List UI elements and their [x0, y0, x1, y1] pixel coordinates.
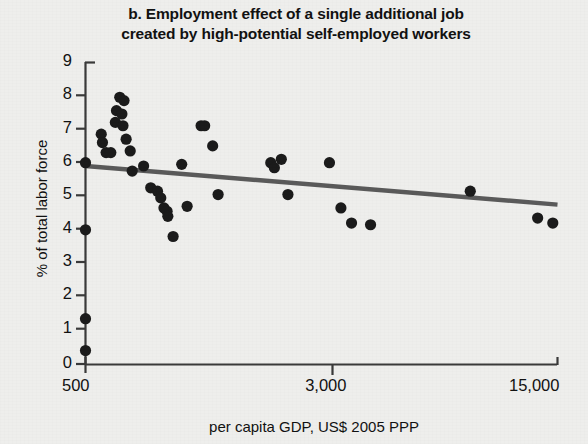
scatter-points: [80, 92, 559, 357]
scatter-point: [276, 154, 287, 165]
scatter-point: [155, 192, 166, 203]
scatter-point: [125, 145, 136, 156]
scatter-point: [121, 134, 132, 145]
x-axis-label: per capita GDP, US$ 2005 PPP: [94, 418, 534, 435]
scatter-point: [105, 147, 116, 158]
scatter-point: [80, 224, 91, 235]
scatter-point: [465, 186, 476, 197]
figure-panel: b. Employment effect of a single additio…: [0, 0, 588, 444]
scatter-point: [365, 219, 376, 230]
scatter-point: [80, 157, 91, 168]
x-tick-label-500: 500: [62, 376, 90, 395]
scatter-point: [80, 313, 91, 324]
scatter-point: [199, 120, 210, 131]
scatter-point: [162, 211, 173, 222]
scatter-point: [168, 231, 179, 242]
scatter-point: [346, 217, 357, 228]
y-tick-label-9: 9: [44, 51, 72, 70]
scatter-point: [335, 202, 346, 213]
x-tick-label-15000: 15,000: [509, 376, 559, 395]
axis-lines: [85, 62, 558, 365]
y-axis-label: % of total labor force: [33, 94, 50, 324]
x-axis-ticks: [86, 357, 333, 375]
scatter-point: [324, 157, 335, 168]
x-tick-label-3000: 3,000: [305, 376, 346, 395]
scatter-point: [138, 160, 149, 171]
scatter-point: [127, 165, 138, 176]
scatter-point: [118, 95, 129, 106]
scatter-point: [532, 212, 543, 223]
scatter-point: [282, 189, 293, 200]
scatter-point: [176, 159, 187, 170]
plot-area: 9 8 7 6 5 4 3 2 1 0 500 3,000 15,000 % o…: [0, 0, 588, 444]
scatter-point: [117, 120, 128, 131]
scatter-point: [80, 345, 91, 356]
scatter-point: [116, 108, 127, 119]
scatter-point: [547, 217, 558, 228]
scatter-point: [182, 201, 193, 212]
scatter-point: [213, 189, 224, 200]
y-tick-label-0: 0: [44, 353, 72, 372]
scatter-point: [207, 140, 218, 151]
scatter-point: [97, 137, 108, 148]
